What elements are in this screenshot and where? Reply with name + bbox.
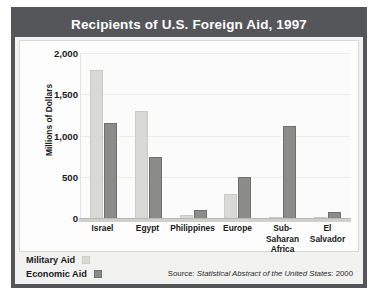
x-tick-label-line: Sub-Saharan (260, 223, 305, 244)
chart-title-bar: Recipients of U.S. Foreign Aid, 1997 (15, 11, 363, 37)
bar-military-aid (90, 70, 103, 219)
source-publication: Statistical Abstract of the United State… (197, 269, 332, 278)
bar-economic-aid (283, 126, 296, 218)
x-tick-label-line: Philippines (170, 223, 215, 234)
x-tick-label: ElSalvador (305, 223, 350, 255)
x-axis-baseline (79, 218, 351, 222)
y-tick-label: 1,000 (32, 130, 78, 141)
legend-swatch-military-aid (82, 256, 90, 264)
legend-item-military-aid: Military Aid (26, 254, 90, 266)
y-tick-label: 0 (32, 213, 78, 224)
y-tick-label: 2,000 (32, 48, 78, 59)
x-tick-label: Sub-SaharanAfrica (260, 223, 305, 255)
chart-plot-card: Millions of Dollars 05001,0001,5002,000 … (19, 40, 359, 252)
chart-figure: Recipients of U.S. Foreign Aid, 1997 Mil… (11, 7, 367, 288)
x-tick-label: Philippines (170, 223, 215, 255)
legend-label-economic-aid: Economic Aid (26, 269, 87, 279)
x-tick-label-line: Israel (80, 223, 125, 234)
source-prefix: Source: (168, 269, 195, 278)
bar-group (215, 53, 260, 218)
bar-economic-aid (238, 177, 251, 218)
x-tick-label-line: Europe (215, 223, 260, 234)
bar-military-aid (135, 111, 148, 218)
bar-group (305, 53, 350, 218)
x-tick-label-line: El (305, 223, 350, 234)
x-axis-labels: IsraelEgyptPhilippinesEuropeSub-SaharanA… (80, 223, 350, 255)
x-tick-label: Egypt (125, 223, 170, 255)
bar-group (171, 53, 216, 218)
bar-group (126, 53, 171, 218)
bar-economic-aid (104, 123, 117, 218)
bar-group (81, 53, 126, 218)
source-suffix: : 2000 (331, 269, 353, 278)
legend-label-military-aid: Military Aid (26, 255, 75, 265)
x-tick-label-line: Africa (260, 244, 305, 255)
legend-item-economic-aid: Economic Aid (26, 268, 102, 280)
bar-economic-aid (149, 157, 162, 218)
x-tick-label-line: Salvador (305, 234, 350, 245)
bar-group (260, 53, 305, 218)
bar-economic-aid (194, 210, 207, 218)
y-tick-label: 500 (32, 171, 78, 182)
x-tick-label: Israel (80, 223, 125, 255)
chart-footer: Military Aid Economic Aid Source: Statis… (19, 254, 359, 284)
x-tick-label: Europe (215, 223, 260, 255)
page-title: Recipients of U.S. Foreign Aid, 1997 (71, 17, 307, 32)
plot-area (80, 53, 350, 218)
source-note: Source: Statistical Abstract of the Unit… (168, 269, 353, 278)
x-tick-label-line: Egypt (125, 223, 170, 234)
bar-series-container (81, 53, 350, 218)
legend-swatch-economic-aid (94, 270, 102, 278)
bar-military-aid (224, 194, 237, 218)
y-axis-ticks: 05001,0001,5002,000 (20, 41, 78, 251)
y-tick-label: 1,500 (32, 89, 78, 100)
